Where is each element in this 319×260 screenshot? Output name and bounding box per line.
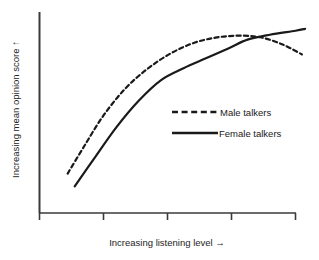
- legend-label-female: Female talkers: [219, 128, 281, 139]
- y-axis-label-container: Increasing mean opinion score ↑: [0, 0, 30, 218]
- x-axis-ticks: [40, 213, 296, 220]
- series-line-male-talkers: [68, 36, 302, 174]
- chart-container: Increasing mean opinion score ↑ Increasi…: [0, 0, 319, 260]
- y-axis-label: Increasing mean opinion score ↑: [10, 41, 21, 178]
- x-axis-label: Increasing listening level →: [109, 237, 225, 248]
- x-axis-label-container: Increasing listening level →: [39, 232, 295, 250]
- legend-label-male: Male talkers: [220, 107, 271, 118]
